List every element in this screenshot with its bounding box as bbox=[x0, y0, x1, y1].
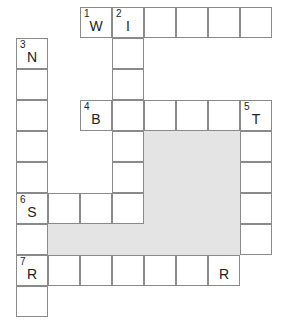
crossword-cell[interactable]: 7R bbox=[16, 255, 48, 286]
crossword-cell[interactable] bbox=[176, 7, 208, 38]
crossword-cell[interactable] bbox=[144, 7, 176, 38]
crossword-grid: 1W2I3N4B5T6S7RR bbox=[0, 0, 289, 327]
crossword-cell[interactable] bbox=[208, 7, 240, 38]
crossword-cell[interactable] bbox=[144, 100, 176, 131]
crossword-cell[interactable] bbox=[112, 255, 144, 286]
crossword-cell[interactable] bbox=[240, 224, 272, 255]
crossword-cell[interactable] bbox=[16, 100, 48, 131]
crossword-cell[interactable]: 5T bbox=[240, 100, 272, 131]
crossword-cell[interactable]: 6S bbox=[16, 193, 48, 224]
cell-letter: W bbox=[81, 18, 111, 34]
crossword-cell[interactable] bbox=[144, 255, 176, 286]
cell-letter: B bbox=[81, 111, 111, 127]
cell-letter: T bbox=[241, 111, 271, 127]
crossword-cell[interactable] bbox=[16, 162, 48, 193]
crossword-cell[interactable] bbox=[16, 69, 48, 100]
crossword-cell[interactable] bbox=[176, 255, 208, 286]
crossword-cell[interactable] bbox=[208, 100, 240, 131]
crossword-cell[interactable] bbox=[112, 131, 144, 162]
crossword-cell[interactable] bbox=[48, 193, 80, 224]
crossword-cell[interactable]: R bbox=[208, 255, 240, 286]
crossword-cell[interactable]: 4B bbox=[80, 100, 112, 131]
crossword-cell[interactable] bbox=[80, 255, 112, 286]
cell-letter: R bbox=[17, 266, 47, 282]
crossword-cell[interactable] bbox=[112, 100, 144, 131]
crossword-cell[interactable] bbox=[240, 162, 272, 193]
crossword-cell[interactable] bbox=[48, 255, 80, 286]
shaded-area bbox=[48, 223, 240, 255]
crossword-cell[interactable] bbox=[176, 100, 208, 131]
crossword-cell[interactable] bbox=[16, 286, 48, 317]
crossword-cell[interactable] bbox=[240, 193, 272, 224]
crossword-cell[interactable] bbox=[80, 193, 112, 224]
crossword-cell[interactable] bbox=[240, 7, 272, 38]
crossword-cell[interactable]: 3N bbox=[16, 38, 48, 69]
crossword-cell[interactable] bbox=[112, 193, 144, 224]
cell-letter: I bbox=[113, 18, 143, 34]
crossword-cell[interactable] bbox=[112, 38, 144, 69]
crossword-cell[interactable]: 2I bbox=[112, 7, 144, 38]
crossword-cell[interactable] bbox=[16, 131, 48, 162]
crossword-cell[interactable] bbox=[112, 69, 144, 100]
crossword-cell[interactable] bbox=[240, 131, 272, 162]
cell-letter: N bbox=[17, 49, 47, 65]
cell-letter: R bbox=[209, 266, 239, 282]
crossword-cell[interactable] bbox=[112, 162, 144, 193]
cell-letter: S bbox=[17, 204, 47, 220]
crossword-cell[interactable]: 1W bbox=[80, 7, 112, 38]
crossword-cell[interactable] bbox=[16, 224, 48, 255]
